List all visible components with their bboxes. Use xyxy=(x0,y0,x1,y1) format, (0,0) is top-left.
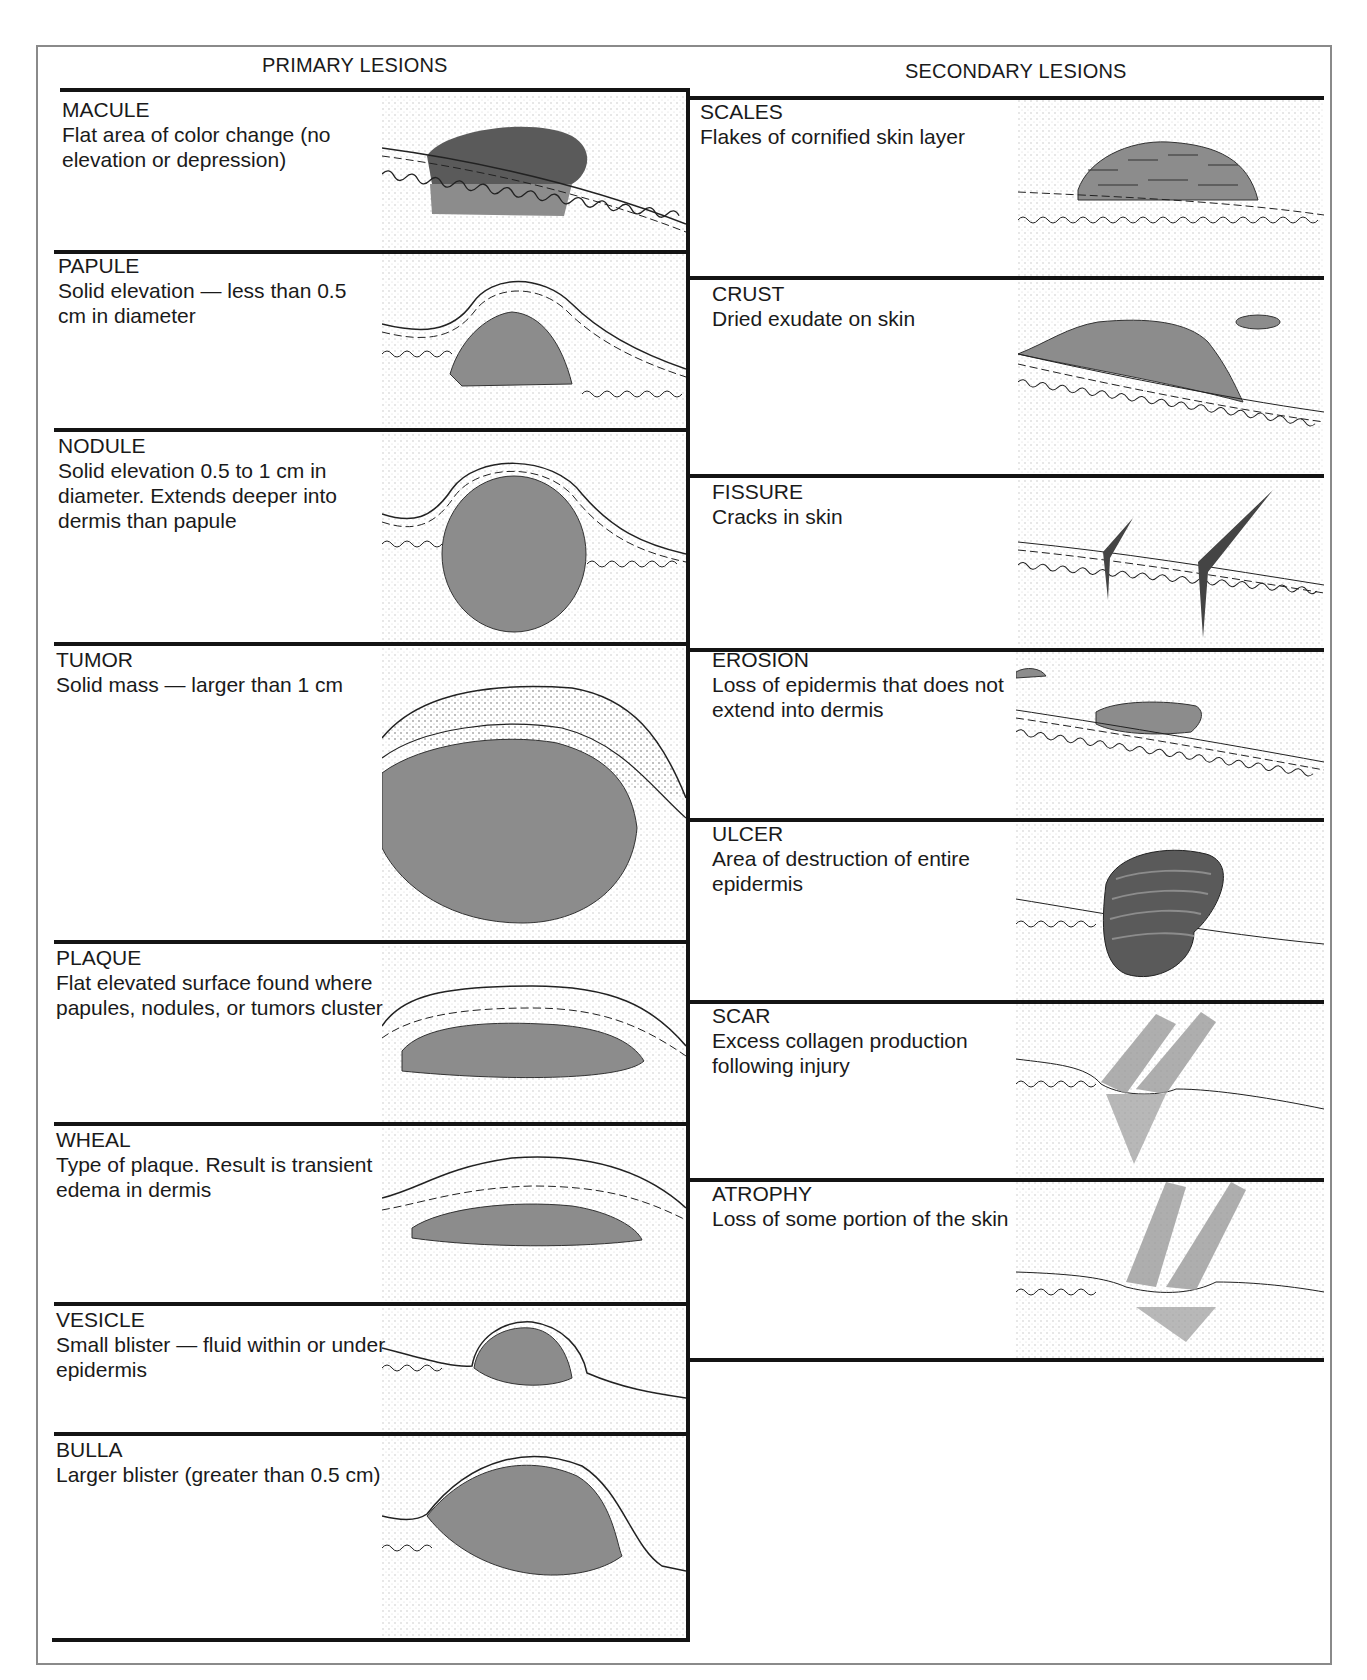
lesion-erosion: EROSION Loss of epidermis that does not … xyxy=(712,648,1012,722)
lesion-atrophy: ATROPHY Loss of some portion of the skin xyxy=(712,1182,1012,1231)
lesion-description: Flat elevated surface found where papule… xyxy=(56,970,386,1020)
divider xyxy=(54,940,690,944)
lesion-name: ATROPHY xyxy=(712,1182,1012,1206)
secondary-column-title: SECONDARY LESIONS xyxy=(905,60,1127,83)
lesion-wheal: WHEAL Type of plaque. Result is transien… xyxy=(56,1128,386,1202)
lesion-ulcer: ULCER Area of destruction of entire epid… xyxy=(712,822,1012,896)
divider xyxy=(54,1122,690,1126)
lesion-name: CRUST xyxy=(712,282,1012,306)
lesion-name: MACULE xyxy=(62,98,380,122)
papule-illustration xyxy=(382,254,686,428)
bulla-illustration xyxy=(382,1436,686,1636)
lesion-name: FISSURE xyxy=(712,480,1012,504)
lesion-name: SCALES xyxy=(700,100,1020,124)
lesion-name: WHEAL xyxy=(56,1128,386,1152)
lesion-name: ULCER xyxy=(712,822,1012,846)
macule-illustration xyxy=(382,96,686,248)
tumor-illustration xyxy=(382,648,686,940)
crust-illustration xyxy=(1018,282,1324,476)
lesion-description: Loss of epidermis that does not extend i… xyxy=(712,672,1012,722)
vesicle-illustration xyxy=(382,1308,686,1432)
lesion-scar: SCAR Excess collagen production followin… xyxy=(712,1004,1012,1078)
lesion-name: EROSION xyxy=(712,648,1012,672)
lesion-nodule: NODULE Solid elevation 0.5 to 1 cm in di… xyxy=(58,434,388,533)
lesion-vesicle: VESICLE Small blister — fluid within or … xyxy=(56,1308,386,1382)
lesion-papule: PAPULE Solid elevation — less than 0.5 c… xyxy=(58,254,378,328)
lesion-name: NODULE xyxy=(58,434,388,458)
plaque-illustration xyxy=(382,946,686,1122)
lesion-name: PLAQUE xyxy=(56,946,386,970)
wheal-illustration xyxy=(382,1128,686,1302)
lesion-name: SCAR xyxy=(712,1004,1012,1028)
lesion-name: VESICLE xyxy=(56,1308,386,1332)
primary-column-title: PRIMARY LESIONS xyxy=(262,54,448,77)
divider xyxy=(54,642,690,646)
lesion-description: Solid elevation 0.5 to 1 cm in diameter.… xyxy=(58,458,388,533)
divider xyxy=(690,1358,1324,1362)
divider xyxy=(60,88,690,92)
divider xyxy=(690,474,1324,478)
scar-illustration xyxy=(1016,1004,1324,1178)
lesion-fissure: FISSURE Cracks in skin xyxy=(712,480,1012,529)
nodule-illustration xyxy=(382,434,686,642)
lesion-description: Solid elevation — less than 0.5 cm in di… xyxy=(58,278,378,328)
lesion-description: Larger blister (greater than 0.5 cm) xyxy=(56,1462,386,1487)
divider xyxy=(54,1302,690,1306)
lesion-bulla: BULLA Larger blister (greater than 0.5 c… xyxy=(56,1438,386,1487)
lesion-description: Area of destruction of entire epidermis xyxy=(712,846,1012,896)
lesion-description: Small blister — fluid within or under ep… xyxy=(56,1332,386,1382)
lesion-description: Solid mass — larger than 1 cm xyxy=(56,672,376,697)
lesion-description: Excess collagen production following inj… xyxy=(712,1028,1012,1078)
divider xyxy=(52,1638,690,1642)
divider xyxy=(54,428,690,432)
lesion-name: BULLA xyxy=(56,1438,386,1462)
lesion-description: Dried exudate on skin xyxy=(712,306,1012,331)
lesion-tumor: TUMOR Solid mass — larger than 1 cm xyxy=(56,648,376,697)
lesion-plaque: PLAQUE Flat elevated surface found where… xyxy=(56,946,386,1020)
lesion-description: Flat area of color change (no elevation … xyxy=(62,122,380,172)
lesion-name: TUMOR xyxy=(56,648,376,672)
lesion-scales: SCALES Flakes of cornified skin layer xyxy=(700,100,1020,149)
lesion-macule: MACULE Flat area of color change (no ele… xyxy=(62,98,380,172)
lesion-description: Flakes of cornified skin layer xyxy=(700,124,1020,149)
lesion-crust: CRUST Dried exudate on skin xyxy=(712,282,1012,331)
lesion-description: Loss of some portion of the skin xyxy=(712,1206,1012,1231)
column-divider xyxy=(686,88,690,1640)
fissure-illustration xyxy=(1018,480,1324,648)
lesion-description: Cracks in skin xyxy=(712,504,1012,529)
ulcer-illustration xyxy=(1016,824,1324,1000)
divider xyxy=(690,276,1324,280)
lesion-name: PAPULE xyxy=(58,254,378,278)
erosion-illustration xyxy=(1016,652,1324,818)
atrophy-illustration xyxy=(1016,1182,1324,1358)
lesion-description: Type of plaque. Result is transient edem… xyxy=(56,1152,386,1202)
scales-illustration xyxy=(1018,100,1324,276)
